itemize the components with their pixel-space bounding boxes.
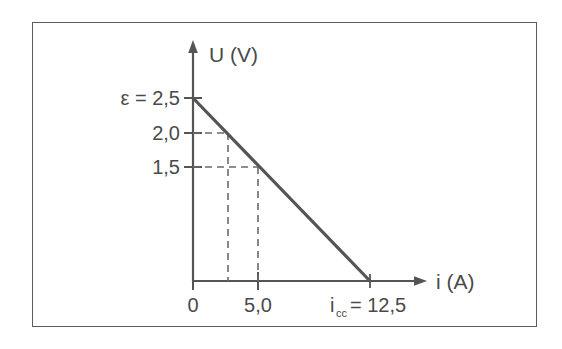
y-tick-label-2-0: 2,0 — [152, 122, 180, 144]
y-axis-title: U (V) — [209, 43, 258, 66]
axis-group — [188, 40, 427, 286]
y-tick-label-1-5: 1,5 — [152, 156, 180, 178]
x-tick-label-origin: 0 — [187, 294, 198, 316]
x-tick-label-5-0: 5,0 — [244, 294, 272, 316]
y-axis-arrowhead — [188, 40, 198, 53]
figure-root: U (V) i (A) ε = 2,5 2,0 1,5 0 5,0 i cc =… — [0, 0, 562, 349]
y-tick-label-emf: ε = 2,5 — [120, 87, 180, 109]
x-tick-label-short-circuit: i cc = 12,5 — [330, 294, 406, 319]
short-circuit-value: = 12,5 — [350, 294, 406, 316]
chart-plot-area: U (V) i (A) ε = 2,5 2,0 1,5 0 5,0 i cc =… — [0, 0, 562, 349]
short-circuit-subscript: cc — [336, 307, 348, 319]
x-axis-arrowhead — [414, 276, 427, 286]
short-circuit-symbol: i — [330, 294, 334, 316]
x-axis-title: i (A) — [436, 270, 475, 293]
tick-mark-group — [184, 98, 370, 290]
data-line-u-vs-i — [193, 98, 370, 281]
